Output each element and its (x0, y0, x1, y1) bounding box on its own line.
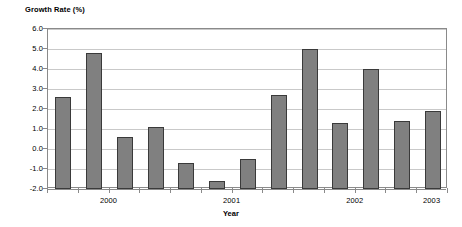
x-axis-tick-mark (416, 188, 417, 193)
x-axis-tick-mark (232, 188, 233, 193)
y-axis-tick-mark (43, 128, 47, 129)
y-axis-tick-label: 3.0 (32, 84, 43, 93)
y-axis-title: Growth Rate (%) (25, 5, 85, 14)
x-axis-tick-mark (447, 188, 448, 193)
bar (86, 53, 102, 189)
x-axis-group-label: 2000 (100, 196, 117, 205)
y-axis-tick-mark (43, 28, 47, 29)
x-axis-group-label: 2003 (423, 196, 440, 205)
x-axis-tick-mark (170, 188, 171, 193)
x-axis-tick-mark (262, 188, 263, 193)
x-axis-group-label: 2001 (223, 196, 240, 205)
bar (363, 69, 379, 189)
x-axis-tick-mark (47, 188, 48, 193)
bar (209, 181, 225, 189)
bar (148, 127, 164, 189)
y-axis-tick-label: -1.0 (30, 164, 43, 173)
plot-area (47, 28, 447, 188)
y-axis-tick-label: 2.0 (32, 104, 43, 113)
x-axis-tick-mark (78, 188, 79, 193)
y-axis-tick-mark (43, 68, 47, 69)
y-axis-tick-label: 1.0 (32, 124, 43, 133)
y-axis-tick-label: 0.0 (32, 144, 43, 153)
bar (55, 97, 71, 189)
y-axis-tick-mark (43, 168, 47, 169)
y-axis-tick-label: 4.0 (32, 64, 43, 73)
x-axis-tick-mark (139, 188, 140, 193)
bar (302, 49, 318, 189)
bar-series (48, 29, 446, 187)
y-axis-tick-mark (43, 148, 47, 149)
x-axis-tick-mark (385, 188, 386, 193)
x-axis-tick-mark (109, 188, 110, 193)
y-axis-tick-label: 5.0 (32, 44, 43, 53)
bar (332, 123, 348, 189)
bar (117, 137, 133, 189)
bar (178, 163, 194, 189)
y-axis-tick-label: -2.0 (30, 184, 43, 193)
bar (240, 159, 256, 189)
bar (394, 121, 410, 189)
gridline (48, 189, 446, 190)
x-axis-tick-mark (355, 188, 356, 193)
x-axis-group-label: 2002 (346, 196, 363, 205)
y-axis-tick-label: 6.0 (32, 24, 43, 33)
y-axis-tick-mark (43, 48, 47, 49)
x-axis-tick-mark (293, 188, 294, 193)
y-axis-tick-mark (43, 88, 47, 89)
x-axis-tick-mark (201, 188, 202, 193)
x-axis-tick-mark (324, 188, 325, 193)
bar (271, 95, 287, 189)
y-axis-tick-mark (43, 108, 47, 109)
growth-rate-bar-chart: Growth Rate (%) 6.05.04.03.02.01.00.0-1.… (0, 0, 462, 227)
bar (425, 111, 441, 189)
x-axis-title: Year (0, 209, 462, 218)
